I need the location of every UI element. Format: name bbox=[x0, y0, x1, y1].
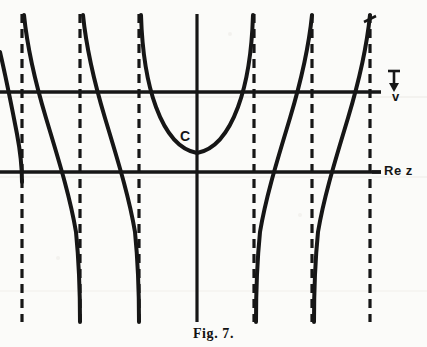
axis-label-re-z: Re z bbox=[384, 163, 413, 178]
axis-label-v: v bbox=[392, 89, 399, 104]
figure-plot bbox=[0, 0, 427, 347]
figure-caption: Fig. 7. bbox=[0, 326, 427, 342]
figure-container: C Re z v Fig. 7. bbox=[0, 0, 427, 347]
contour-label-c: C bbox=[180, 128, 190, 144]
